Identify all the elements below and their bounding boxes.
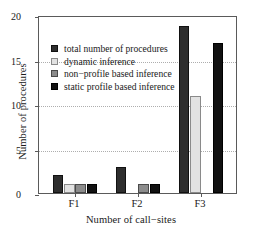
legend-swatch-total-icon [51,45,58,52]
legend-item-2: non−profile based inference [51,68,175,79]
y-tick-label-20: 20 [0,11,21,22]
bar-F3-series-1 [190,96,201,193]
bar-F2-series-2 [138,184,149,193]
legend-label-3: static profile based inference [64,81,175,92]
legend-swatch-non-profile-icon [51,70,58,77]
bar-F1-series-0 [53,175,64,193]
y-tick-label-10: 10 [0,100,21,111]
legend-swatch-static-profile-icon [51,83,58,90]
legend-label-0: total number of procedures [64,43,168,54]
x-tick-mark-F2 [138,193,139,197]
bar-F1-series-1 [64,184,75,193]
y-tick-label-15: 15 [0,55,21,66]
bar-group-F3 [179,17,223,193]
y-tick-label-0: 0 [0,189,21,200]
legend: total number of procedures dynamic infer… [51,43,175,93]
bar-F2-series-0 [116,167,127,193]
legend-item-0: total number of procedures [51,43,175,54]
bar-F3-series-3 [213,43,224,193]
x-tick-label-F2: F2 [117,198,157,209]
x-tick-label-F1: F1 [54,198,94,209]
x-axis-title: Number of call−sites [0,214,262,225]
bar-F1-series-3 [87,184,98,193]
legend-item-1: dynamic inference [51,56,175,67]
legend-item-3: static profile based inference [51,81,175,92]
bar-F3-series-0 [179,26,190,193]
legend-label-2: non−profile based inference [64,68,172,79]
x-tick-mark-F3 [201,193,202,197]
bar-F2-series-3 [150,184,161,193]
legend-label-1: dynamic inference [64,56,135,67]
y-tick-mark-0 [35,195,39,196]
legend-swatch-dynamic-icon [51,58,58,65]
x-tick-mark-F1 [75,193,76,197]
y-tick-label-5: 5 [0,144,21,155]
bar-chart-figure: Number of procedures 0 5 10 15 20 total … [0,0,262,243]
plot-area: total number of procedures dynamic infer… [38,16,237,194]
bar-F1-series-2 [75,184,86,193]
x-tick-label-F3: F3 [180,198,220,209]
